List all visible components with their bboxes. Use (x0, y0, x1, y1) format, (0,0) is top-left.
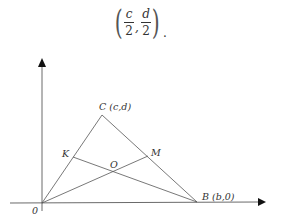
label-origin: 0 (32, 205, 38, 216)
label-C: C (c,d) (99, 101, 131, 112)
label-K: K (61, 148, 70, 159)
x-axis (10, 202, 258, 203)
label-O: O (110, 159, 118, 170)
y-axis-arrow-icon (38, 58, 46, 67)
label-B: B (b,0) (201, 191, 235, 202)
label-M: M (150, 147, 161, 158)
triangle-diagram: C (c,d) K M O B (b,0) 0 (0, 0, 282, 224)
median-KB (73, 157, 197, 202)
x-axis-arrow-icon (258, 198, 266, 206)
